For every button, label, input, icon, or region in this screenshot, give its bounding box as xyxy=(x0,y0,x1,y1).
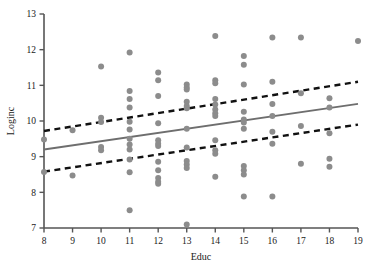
scatter-plot-figure: 78910111213 8910111213141516171819 Educ … xyxy=(0,0,369,262)
data-point xyxy=(127,147,133,153)
data-point xyxy=(326,130,332,136)
data-point xyxy=(184,221,190,227)
data-point xyxy=(98,147,104,153)
x-axis-tick-label: 15 xyxy=(239,236,249,246)
data-point xyxy=(41,169,47,175)
data-point xyxy=(184,144,190,150)
data-point xyxy=(155,120,161,126)
y-axis-tick-label: 13 xyxy=(27,9,37,19)
y-axis-tick-label: 12 xyxy=(27,45,37,55)
data-point xyxy=(212,113,218,119)
x-axis-tick-label: 8 xyxy=(42,236,47,246)
data-point xyxy=(326,104,332,110)
data-point xyxy=(127,136,133,142)
data-point xyxy=(155,159,161,165)
data-point xyxy=(326,95,332,101)
data-point xyxy=(298,161,304,167)
y-axis-tick-label: 11 xyxy=(27,81,36,91)
data-point xyxy=(269,129,275,135)
data-point xyxy=(155,69,161,75)
data-point xyxy=(269,194,275,200)
plot-canvas: 78910111213 8910111213141516171819 Educ … xyxy=(0,0,369,262)
x-axis-tick-label: 16 xyxy=(268,236,278,246)
data-point xyxy=(298,123,304,129)
data-point xyxy=(155,181,161,187)
data-point xyxy=(241,62,247,68)
data-point xyxy=(269,113,275,119)
data-point xyxy=(70,127,76,133)
x-axis-tick-label: 9 xyxy=(70,236,75,246)
data-point xyxy=(241,194,247,200)
data-point xyxy=(127,96,133,102)
data-point xyxy=(155,77,161,83)
data-point xyxy=(269,141,275,147)
x-axis-tick-label: 10 xyxy=(96,236,106,246)
data-point xyxy=(212,96,218,102)
x-axis-tick-label: 11 xyxy=(125,236,134,246)
y-axis-tick-label: 10 xyxy=(27,116,37,126)
data-point xyxy=(127,127,133,133)
x-axis-tick-label: 18 xyxy=(325,236,335,246)
data-point xyxy=(241,82,247,88)
data-point xyxy=(127,50,133,56)
data-point xyxy=(98,63,104,69)
data-point xyxy=(241,126,247,132)
x-axis-tick-label: 12 xyxy=(153,236,163,246)
data-point xyxy=(326,164,332,170)
data-point xyxy=(155,93,161,99)
x-axis-title: Educ xyxy=(191,251,212,262)
data-point xyxy=(70,173,76,179)
data-point xyxy=(355,38,361,44)
data-point xyxy=(269,35,275,41)
x-axis-tick-label: 13 xyxy=(182,236,192,246)
data-point xyxy=(184,87,190,93)
data-point xyxy=(326,156,332,162)
data-point xyxy=(41,137,47,143)
data-point xyxy=(212,151,218,157)
y-axis-tick-label: 9 xyxy=(31,152,36,162)
data-point xyxy=(184,165,190,171)
y-axis-tick-label: 8 xyxy=(31,188,36,198)
data-point xyxy=(212,33,218,39)
data-point xyxy=(98,119,104,125)
data-point xyxy=(155,143,161,149)
data-point xyxy=(241,119,247,125)
data-point xyxy=(127,88,133,94)
data-point xyxy=(184,126,190,132)
data-point xyxy=(269,101,275,107)
data-point xyxy=(127,169,133,175)
data-point xyxy=(212,80,218,86)
data-point xyxy=(127,119,133,125)
x-axis-tick-label: 19 xyxy=(353,236,363,246)
data-point xyxy=(241,53,247,59)
data-point xyxy=(241,172,247,178)
data-point xyxy=(127,157,133,163)
data-point xyxy=(212,174,218,180)
data-point xyxy=(298,35,304,41)
data-point xyxy=(212,137,218,143)
data-point xyxy=(155,167,161,173)
x-axis-tick-label: 17 xyxy=(296,236,306,246)
y-axis-tick-label: 7 xyxy=(31,223,36,233)
data-point xyxy=(269,79,275,85)
data-point xyxy=(184,105,190,111)
data-point xyxy=(127,207,133,213)
data-point xyxy=(298,90,304,96)
data-point xyxy=(127,104,133,110)
data-point xyxy=(241,109,247,115)
x-axis-tick-label: 14 xyxy=(211,236,221,246)
y-axis-title: Loginc xyxy=(5,106,16,135)
